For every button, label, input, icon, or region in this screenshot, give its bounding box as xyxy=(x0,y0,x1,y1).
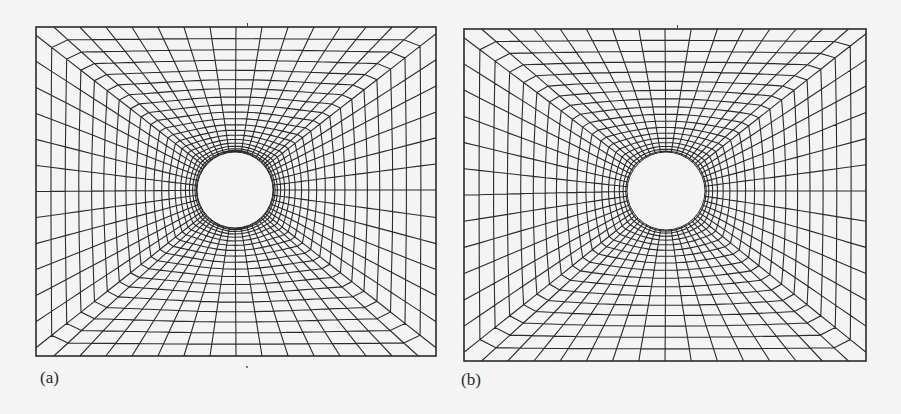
mesh-panel-b xyxy=(0,0,901,414)
mesh-figure: (a) (b) xyxy=(0,0,901,414)
top-tick-b xyxy=(677,25,678,29)
panel-a-caption: (a) xyxy=(40,368,59,388)
circular-hole xyxy=(627,152,705,230)
bottom-dot-a xyxy=(246,366,248,368)
panel-b-caption: (b) xyxy=(461,370,481,390)
top-tick-a xyxy=(247,23,248,27)
